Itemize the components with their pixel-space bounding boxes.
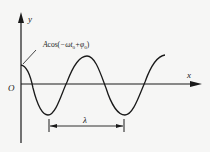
y-axis-arrow-icon — [18, 12, 24, 23]
wave-diagram: y x O λ Acos(−ωt0+φ0) — [0, 0, 210, 152]
intercept-label-func: cos — [48, 40, 58, 49]
origin-label: O — [8, 83, 15, 93]
intercept-label-omega-t: −ωt — [60, 40, 73, 49]
wave-diagram-svg: y x O λ Acos(−ωt0+φ0) — [0, 0, 210, 152]
intercept-leader-line — [23, 50, 36, 64]
intercept-label-plus-phi: +φ — [75, 40, 84, 49]
x-axis-arrow-icon — [190, 81, 202, 87]
intercept-label-close-paren: ) — [87, 40, 90, 49]
intercept-label: Acos(−ωt0+φ0) — [42, 40, 90, 50]
y-axis-label: y — [27, 14, 32, 24]
wavelength-arrow-left-icon — [50, 124, 57, 128]
wavelength-label: λ — [82, 115, 87, 125]
x-axis-label: x — [186, 70, 191, 80]
wave-curve — [21, 55, 165, 115]
wavelength-arrow-right-icon — [116, 124, 123, 128]
